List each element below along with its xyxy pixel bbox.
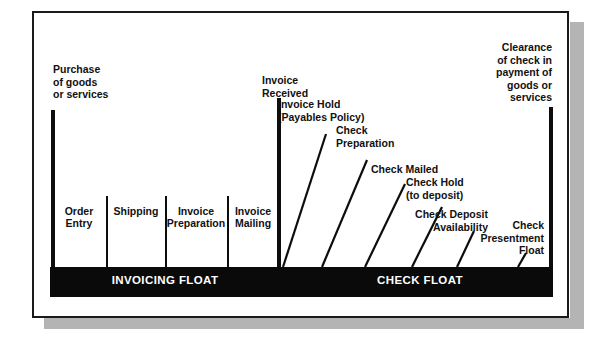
cell-label-order-entry: Order Entry bbox=[53, 205, 105, 229]
callout-check-presentment-float: Check Presentment Float bbox=[478, 219, 544, 257]
callout-check-preparation: Check Preparation bbox=[336, 124, 394, 149]
cell-label-invoice-mailing-line1: Invoice bbox=[235, 205, 271, 217]
callout-check-hold: Check Hold (to deposit) bbox=[406, 176, 464, 201]
callout-check-hold-line2: (to deposit) bbox=[406, 189, 463, 201]
callout-clearance-line2: of check in bbox=[497, 54, 552, 66]
callout-clearance-line5: services bbox=[510, 91, 552, 103]
callout-clearance-line3: payment of bbox=[496, 66, 552, 78]
callout-check-preparation-line1: Check bbox=[336, 124, 368, 136]
callout-invoice-received: Invoice Received bbox=[262, 74, 308, 99]
callout-purchase-of-goods: Purchase of goods or services bbox=[53, 63, 108, 101]
callout-invoice-hold-line2: (Payables Policy) bbox=[278, 111, 364, 123]
diagonal-check-preparation bbox=[322, 160, 367, 267]
callout-check-preparation-line2: Preparation bbox=[336, 137, 394, 149]
cell-label-shipping-line1: Shipping bbox=[114, 205, 159, 217]
cell-label-invoice-preparation-line2: Preparation bbox=[167, 217, 225, 229]
diagonal-invoice-hold bbox=[283, 134, 326, 267]
cell-label-invoice-preparation: Invoice Preparation bbox=[166, 205, 226, 229]
cell-label-invoice-preparation-line1: Invoice bbox=[178, 205, 214, 217]
callout-purchase-line2: of goods bbox=[53, 76, 97, 88]
callout-invoice-received-line1: Invoice bbox=[262, 74, 298, 86]
callout-check-presentment-float-line2: Presentment bbox=[480, 232, 544, 244]
cell-label-invoice-mailing-line2: Mailing bbox=[235, 217, 271, 229]
cell-label-shipping: Shipping bbox=[108, 205, 164, 217]
timeline-plot: INVOICING FLOAT CHECK FLOAT Order Entry … bbox=[0, 0, 600, 340]
cell-label-order-entry-line2: Entry bbox=[66, 217, 93, 229]
callout-invoice-hold: Invoice Hold (Payables Policy) bbox=[278, 98, 364, 123]
callout-clearance-of-check: Clearance of check in payment of goods o… bbox=[478, 41, 552, 104]
diagonal-check-deposit-availability bbox=[457, 231, 474, 267]
callout-check-deposit-availability: Check Deposit Availability bbox=[378, 208, 488, 233]
cell-label-invoice-mailing: Invoice Mailing bbox=[229, 205, 277, 229]
check-float-label: CHECK FLOAT bbox=[375, 274, 465, 286]
callout-clearance-line1: Clearance bbox=[502, 41, 552, 53]
figure-stage: INVOICING FLOAT CHECK FLOAT Order Entry … bbox=[0, 0, 600, 340]
callout-check-presentment-float-line3: Float bbox=[519, 244, 544, 256]
cell-label-order-entry-line1: Order bbox=[65, 205, 94, 217]
callout-check-mailed: Check Mailed bbox=[371, 163, 438, 176]
callout-check-hold-line1: Check Hold bbox=[406, 176, 464, 188]
callout-check-mailed-line1: Check Mailed bbox=[371, 163, 438, 175]
invoicing-float-label: INVOICING FLOAT bbox=[110, 274, 220, 286]
callout-clearance-line4: goods or bbox=[507, 79, 552, 91]
callout-invoice-received-line2: Received bbox=[262, 87, 308, 99]
callout-purchase-line1: Purchase bbox=[53, 63, 100, 75]
callout-check-presentment-float-line1: Check bbox=[512, 219, 544, 231]
callout-invoice-hold-line1: Invoice Hold bbox=[278, 98, 340, 110]
callout-purchase-line3: or services bbox=[53, 88, 108, 100]
